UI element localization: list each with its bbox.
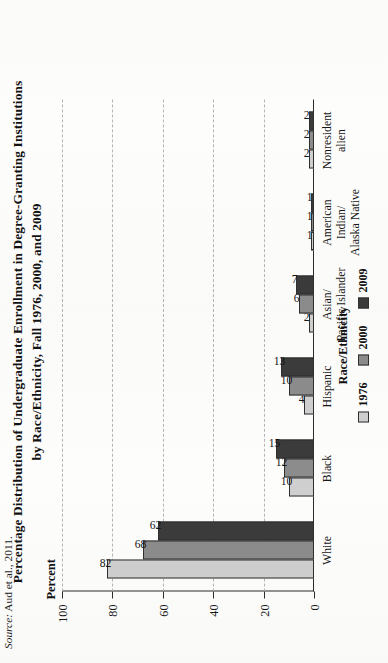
category-label: Black — [320, 427, 334, 509]
bar-value-label: 7 — [291, 273, 297, 285]
bar[interactable]: 6 — [299, 295, 314, 314]
legend: Race/Ethnicity 197620002009 — [336, 99, 371, 591]
bar-slot: 12 — [62, 459, 314, 478]
figure-page: Percentage Distribution of Undergraduate… — [0, 0, 388, 663]
bar-group: 41013Hispanic — [62, 345, 314, 427]
bar-slot: 2 — [62, 131, 314, 150]
y-tick-label-60: 60 — [156, 604, 171, 616]
bar-value-label: 62 — [150, 519, 162, 531]
bar[interactable]: 1 — [311, 194, 314, 213]
bar-group-bars: 267 — [62, 263, 314, 345]
bar-slot: 10 — [62, 478, 314, 497]
bar[interactable]: 13 — [281, 358, 314, 377]
bar-slot: 13 — [62, 358, 314, 377]
bar-group-bars: 41013 — [62, 345, 314, 427]
y-tick-label-80: 80 — [106, 604, 121, 616]
legend-item[interactable]: 2009 — [356, 268, 371, 308]
bar[interactable]: 10 — [289, 377, 314, 396]
bar-value-label: 15 — [268, 437, 280, 449]
figure-title-line-1: Percentage Distribution of Undergraduate… — [10, 80, 25, 583]
source-text: Aud et al., 2011. — [2, 536, 14, 614]
bar-value-label: 2 — [304, 109, 310, 121]
y-tick-label-0: 0 — [308, 604, 323, 610]
plot-area: 100806040200 826862White101215Black41013… — [62, 99, 314, 591]
bar[interactable]: 12 — [284, 459, 314, 478]
bar[interactable]: 1 — [311, 213, 314, 232]
bar-slot: 62 — [62, 522, 314, 541]
bar-slot: 1 — [62, 194, 314, 213]
bar-value-label: 13 — [273, 355, 285, 367]
bar[interactable]: 2 — [309, 112, 314, 131]
y-tick-40: 40 — [213, 591, 214, 598]
category-label: White — [320, 509, 334, 591]
legend-title: Race/Ethnicity — [336, 99, 351, 591]
bar-slot: 1 — [62, 232, 314, 251]
y-axis-title: Percent — [44, 559, 59, 599]
bar-slot: 10 — [62, 377, 314, 396]
bar-slot: 68 — [62, 541, 314, 560]
bar-group: 111American Indian/ Alaska Native — [62, 181, 314, 263]
y-tick-60: 60 — [163, 591, 164, 598]
legend-swatch — [358, 411, 369, 422]
bar-group-bars: 101215 — [62, 427, 314, 509]
bar-group: 101215Black — [62, 427, 314, 509]
bar-group: 222Nonresident alien — [62, 99, 314, 181]
bar-group-bars: 111 — [62, 181, 314, 263]
bar[interactable]: 15 — [276, 440, 314, 459]
legend-item[interactable]: 1976 — [356, 382, 371, 422]
legend-swatch — [358, 354, 369, 365]
legend-label: 2000 — [356, 325, 371, 349]
bar-slot: 2 — [62, 112, 314, 131]
bar-value-label: 1 — [307, 191, 313, 203]
bar-slot: 82 — [62, 560, 314, 579]
bar-slot: 6 — [62, 295, 314, 314]
bar-slot: 2 — [62, 314, 314, 333]
bar-slot: 1 — [62, 213, 314, 232]
y-tick-label-20: 20 — [257, 604, 272, 616]
y-tick-label-40: 40 — [207, 604, 222, 616]
bar-group: 826862White — [62, 509, 314, 591]
y-tick-label-100: 100 — [56, 604, 71, 622]
legend-swatch — [358, 297, 369, 308]
legend-label: 2009 — [356, 268, 371, 292]
y-tick-80: 80 — [112, 591, 113, 598]
source-note: Source: Aud et al., 2011. — [2, 536, 14, 649]
bar[interactable]: 4 — [304, 396, 314, 415]
bar-slot: 15 — [62, 440, 314, 459]
bar-group: 267Asian/ Pacific Islander — [62, 263, 314, 345]
y-tick-20: 20 — [264, 591, 265, 598]
rotated-figure-canvas: Percentage Distribution of Undergraduate… — [0, 0, 388, 663]
legend-label: 1976 — [356, 382, 371, 406]
category-label: Hispanic — [320, 345, 334, 427]
legend-items: 197620002009 — [356, 99, 371, 591]
bar[interactable]: 7 — [296, 276, 314, 295]
bar-slot: 7 — [62, 276, 314, 295]
y-tick-100: 100 — [62, 591, 63, 598]
bar[interactable]: 2 — [309, 150, 314, 169]
bar[interactable]: 1 — [311, 232, 314, 251]
bar[interactable]: 62 — [158, 522, 314, 541]
bar[interactable]: 10 — [289, 478, 314, 497]
bar-slot: 4 — [62, 396, 314, 415]
bar[interactable]: 82 — [107, 560, 314, 579]
source-prefix: Source: — [2, 614, 14, 649]
bar-group-bars: 826862 — [62, 509, 314, 591]
bar-slot: 2 — [62, 150, 314, 169]
bar[interactable]: 2 — [309, 314, 314, 333]
bar[interactable]: 2 — [309, 131, 314, 150]
bar-group-bars: 222 — [62, 99, 314, 181]
legend-item[interactable]: 2000 — [356, 325, 371, 365]
bar[interactable]: 68 — [143, 541, 314, 560]
y-tick-0: 0 — [314, 591, 315, 598]
